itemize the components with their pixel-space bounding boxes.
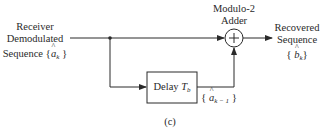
branch-to-delay-line xyxy=(110,38,146,87)
input-label-line1: Receiver xyxy=(2,21,68,33)
delayed-sequence-label: { ak − 1 } xyxy=(199,91,239,107)
input-symbol: a xyxy=(51,48,56,60)
delayed-subscript: k − 1 xyxy=(214,97,229,105)
input-label-line2: Demodulated xyxy=(2,33,68,45)
adder-label: Modulo-2 Adder xyxy=(206,3,262,27)
input-label-line3: Sequence {ak } xyxy=(2,47,68,63)
delayed-symbol: a xyxy=(209,92,214,104)
diagram-canvas xyxy=(0,0,323,133)
output-label: Recovered Sequence { bk} xyxy=(272,22,322,64)
delay-subscript: b xyxy=(187,86,191,94)
delay-text: Delay xyxy=(153,81,178,92)
delay-output-line xyxy=(197,48,234,87)
input-label-prefix: Sequence xyxy=(3,48,43,59)
output-label-line3: { bk} xyxy=(272,48,322,64)
delay-block-label: Delay Tb xyxy=(147,81,197,96)
input-label: Receiver Demodulated Sequence {ak } xyxy=(2,21,68,63)
adder-label-line1: Modulo-2 xyxy=(206,3,262,15)
adder-label-line2: Adder xyxy=(206,15,262,27)
output-label-line1: Recovered xyxy=(272,22,322,34)
output-symbol: b xyxy=(294,49,299,61)
figure-caption: (c) xyxy=(160,116,180,128)
